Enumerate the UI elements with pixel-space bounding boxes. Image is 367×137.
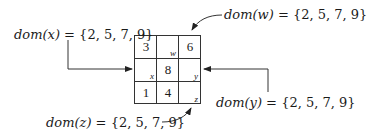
domain-label-w-set: = {2, 5, 7, 9} [274, 7, 367, 22]
cell-r0c1: w [157, 36, 179, 59]
domain-label-y: dom(y) = {2, 5, 7, 9} [216, 96, 356, 110]
domain-label-y-var: dom(y) [216, 95, 262, 110]
domain-label-y-set: = {2, 5, 7, 9} [262, 95, 356, 110]
cell-value: 1 [135, 85, 157, 101]
domain-label-w-var: dom(w) [224, 7, 274, 22]
arrow-x [68, 40, 132, 69]
cell-value: 6 [179, 39, 201, 55]
cell-value: 4 [157, 85, 179, 101]
domain-label-x-var: dom(x) [14, 27, 60, 42]
cell-r0c2: 6 [179, 36, 201, 59]
cell-r1c0: x [135, 59, 157, 82]
sudoku-grid: 3 w 6 x 8 y 1 4 z [134, 35, 201, 104]
domain-label-x-set: = {2, 5, 7, 9} [60, 27, 154, 42]
cell-r2c1: 4 [157, 82, 179, 105]
cell-variable: w [170, 48, 176, 58]
cell-value: 8 [157, 62, 179, 78]
domain-label-x: dom(x) = {2, 5, 7, 9} [14, 28, 154, 42]
cell-r2c0: 1 [135, 82, 157, 105]
cell-r1c1: 8 [157, 59, 179, 82]
cell-r2c2: z [179, 82, 201, 105]
cell-r1c2: y [179, 59, 201, 82]
domain-label-z-var: dom(z) [46, 115, 91, 130]
cell-variable: z [194, 94, 198, 104]
domain-label-z-set: = {2, 5, 7, 9} [91, 115, 185, 130]
arrow-w [192, 15, 222, 30]
domain-label-w: dom(w) = {2, 5, 7, 9} [224, 8, 367, 22]
cell-variable: x [150, 71, 154, 81]
arrow-y [204, 69, 268, 92]
cell-variable: y [194, 71, 198, 81]
domain-label-z: dom(z) = {2, 5, 7, 9} [46, 116, 185, 130]
